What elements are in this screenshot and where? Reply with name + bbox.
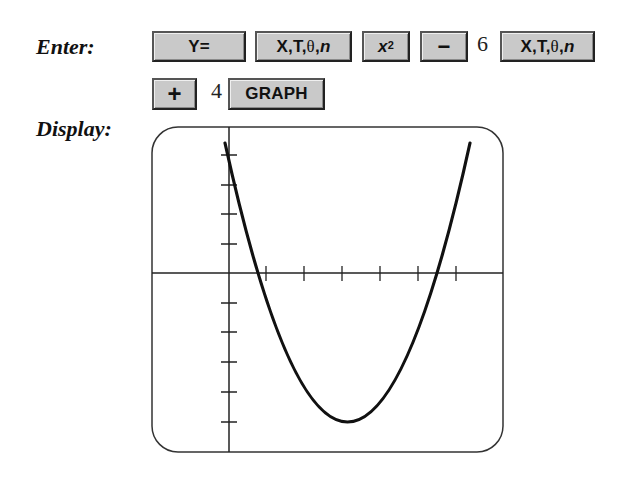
calculator-display (0, 0, 635, 477)
display-frame (152, 127, 503, 452)
